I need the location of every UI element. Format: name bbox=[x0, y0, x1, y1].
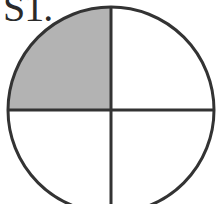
fraction-circle bbox=[0, 0, 223, 204]
